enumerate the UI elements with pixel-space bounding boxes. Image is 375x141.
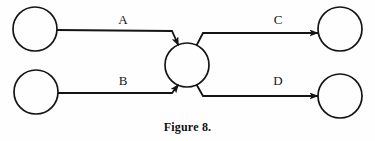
circle-node-hub [165, 43, 209, 87]
figure-container: A B C D Figure 8. [0, 0, 375, 141]
circle-node-sink-bottom [318, 74, 362, 118]
circle-node-source-bottom [14, 70, 58, 114]
edge-d-arrow [197, 85, 319, 97]
edge-label-c: C [266, 13, 290, 26]
edge-c-arrow [197, 33, 319, 46]
edge-label-b: B [111, 74, 135, 87]
circle-node-source-top [13, 7, 57, 51]
circle-node-sink-top [318, 7, 362, 51]
edge-a-arrow [57, 30, 179, 46]
edge-label-a: A [111, 13, 135, 26]
edge-label-d: D [266, 74, 290, 87]
figure-caption: Figure 8. [0, 120, 375, 135]
